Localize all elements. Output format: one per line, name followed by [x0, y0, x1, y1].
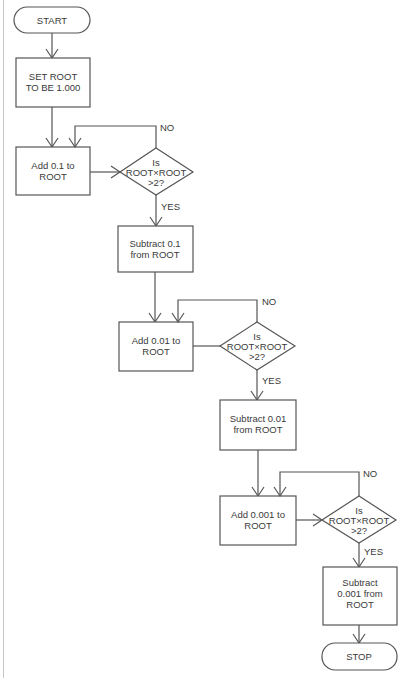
stop-label: STOP: [346, 651, 372, 662]
decision1-line3: >2?: [148, 177, 164, 188]
no-label-1: NO: [160, 122, 174, 133]
init-line2: TO BE 1.000: [26, 82, 81, 93]
init-line1: SET ROOT: [29, 71, 78, 82]
no-label-2: NO: [262, 296, 276, 307]
subtract3-line2: 0.001 from: [337, 588, 382, 599]
loop-no-2: [178, 300, 257, 322]
no-label-3: NO: [363, 468, 377, 479]
add2-line2: ROOT: [142, 346, 170, 357]
init-box: SET ROOT TO BE 1.000: [16, 58, 90, 107]
loop-no-1: [75, 126, 156, 148]
add2-box: Add 0.01 to ROOT: [119, 322, 193, 371]
yes-label-3: YES: [364, 546, 383, 557]
start-label: START: [37, 15, 67, 26]
add1-line2: ROOT: [39, 171, 67, 182]
add1-line1: Add 0.1 to: [31, 160, 74, 171]
subtract2-line1: Subtract 0.01: [230, 413, 287, 424]
subtract1-line2: from ROOT: [130, 249, 179, 260]
add1-box: Add 0.1 to ROOT: [16, 147, 90, 195]
yes-label-2: YES: [262, 375, 281, 386]
start-terminal: START: [14, 7, 90, 33]
add3-line2: ROOT: [244, 520, 272, 531]
flowchart: START SET ROOT TO BE 1.000 Add 0.1 to RO…: [0, 0, 409, 678]
decision1-diamond: Is ROOT×ROOT >2?: [120, 148, 193, 195]
subtract3-box: Subtract 0.001 from ROOT: [323, 567, 397, 625]
loop-no-3: [280, 472, 359, 496]
subtract1-box: Subtract 0.1 from ROOT: [118, 226, 193, 272]
subtract1-line1: Subtract 0.1: [129, 238, 180, 249]
add3-line1: Add 0.001 to: [231, 509, 285, 520]
add3-box: Add 0.001 to ROOT: [220, 496, 296, 545]
add2-line1: Add 0.01 to: [132, 335, 181, 346]
subtract2-box: Subtract 0.01 from ROOT: [220, 400, 296, 450]
stop-terminal: STOP: [322, 643, 397, 670]
decision3-line3: >2?: [351, 525, 367, 536]
subtract2-line2: from ROOT: [233, 424, 282, 435]
decision2-diamond: Is ROOT×ROOT >2?: [220, 322, 295, 370]
subtract3-line1: Subtract: [342, 577, 378, 588]
yes-label-1: YES: [161, 201, 180, 212]
decision3-diamond: Is ROOT×ROOT >2?: [322, 496, 396, 543]
decision2-line3: >2?: [249, 351, 265, 362]
subtract3-line3: ROOT: [346, 599, 374, 610]
